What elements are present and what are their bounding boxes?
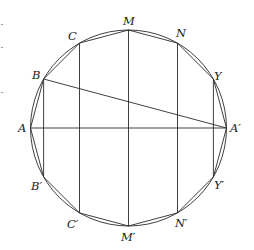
geometry-diagram: A B C M N Y A′ Y′ N′ M′ C′ B′ xyxy=(0,0,254,250)
label-Y: Y xyxy=(214,69,223,83)
label-A: A xyxy=(17,121,26,135)
label-C: C xyxy=(68,29,77,43)
edge-mark xyxy=(1,92,3,93)
edge-mark xyxy=(1,24,3,25)
chord-B-A2 xyxy=(44,79,227,128)
label-B: B xyxy=(31,68,40,82)
label-M: M xyxy=(122,14,136,28)
label-C-prime: C′ xyxy=(67,217,79,231)
label-B-prime: B′ xyxy=(30,179,42,193)
label-M-prime: M′ xyxy=(120,230,136,244)
edge-mark xyxy=(1,47,3,48)
label-N: N xyxy=(175,26,187,40)
label-Y-prime: Y′ xyxy=(214,178,225,192)
label-A-prime: A′ xyxy=(229,121,241,135)
label-N-prime: N′ xyxy=(174,216,188,230)
